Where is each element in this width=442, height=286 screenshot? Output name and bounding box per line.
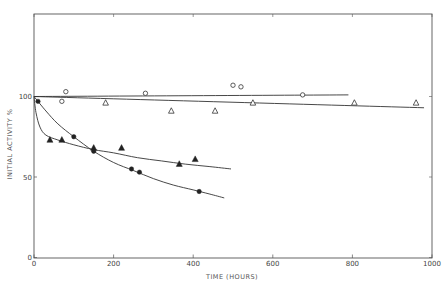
filled-triangles-data-point bbox=[192, 156, 198, 162]
x-tick-label: 600 bbox=[266, 260, 279, 268]
filled-circles-data-point bbox=[36, 99, 40, 103]
filled-triangles-data-point bbox=[59, 137, 65, 143]
open-circles-data-point bbox=[231, 83, 235, 87]
open-triangles-data-point bbox=[212, 108, 218, 113]
x-tick-label: 1000 bbox=[423, 260, 441, 268]
x-tick-label: 400 bbox=[187, 260, 200, 268]
filled-circles-fit-line bbox=[34, 97, 224, 198]
open-circles-data-point bbox=[60, 99, 64, 103]
y-axis-title: INITIAL ACTIVITY % bbox=[6, 108, 14, 179]
open-circles-data-point bbox=[64, 89, 68, 93]
y-tick-label: 50 bbox=[23, 174, 32, 182]
x-axis: 02004006008001000 bbox=[32, 14, 441, 268]
open-circles-data-point bbox=[143, 91, 147, 95]
open-circles-data-point bbox=[239, 85, 243, 89]
x-tick-label: 200 bbox=[107, 260, 120, 268]
filled-circles-data-point bbox=[197, 189, 201, 193]
y-tick-label: 100 bbox=[19, 93, 32, 101]
filled-triangles-data-point bbox=[119, 145, 125, 151]
x-axis-title: TIME (HOURS) bbox=[205, 273, 258, 281]
y-tick-label: 0 bbox=[28, 254, 32, 262]
filled-circles-data-point bbox=[72, 135, 76, 139]
open-triangles-data-point bbox=[169, 108, 175, 113]
x-tick-label: 800 bbox=[346, 260, 359, 268]
open-triangles-fit-line bbox=[34, 97, 424, 108]
plot-frame bbox=[34, 14, 432, 258]
filled-circles-data-point bbox=[129, 167, 133, 171]
filled-circles-data-point bbox=[92, 149, 96, 153]
filled-circles-data-point bbox=[137, 170, 141, 174]
open-circles-data-point bbox=[300, 93, 304, 97]
x-tick-label: 0 bbox=[32, 260, 36, 268]
open-triangles-data-point bbox=[103, 100, 109, 105]
open-triangles-data-point bbox=[413, 100, 419, 105]
open-triangles-data-point bbox=[352, 100, 358, 105]
y-axis: 050100 bbox=[19, 93, 432, 262]
chart: 02004006008001000 050100 TIME (HOURS) IN… bbox=[0, 0, 442, 286]
data-markers bbox=[36, 83, 419, 194]
filled-triangles-data-point bbox=[47, 137, 53, 143]
filled-triangles-fit-line bbox=[34, 97, 231, 169]
